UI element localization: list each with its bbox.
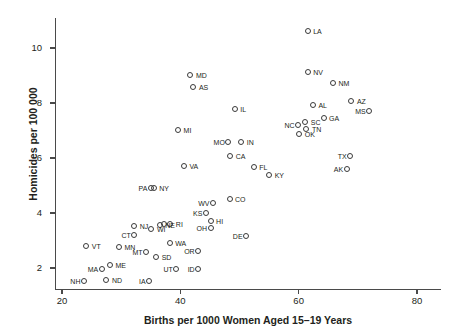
data-point-ok[interactable] bbox=[296, 131, 302, 137]
x-axis-tick bbox=[416, 289, 417, 294]
data-point-label-mo: MO bbox=[209, 139, 225, 146]
data-point-fl[interactable] bbox=[251, 164, 257, 170]
data-point-label-tx: TX bbox=[331, 153, 347, 160]
data-point-sc[interactable] bbox=[302, 119, 308, 125]
data-point-label-oh: OH bbox=[191, 225, 207, 232]
data-point-label-ak: AK bbox=[327, 166, 343, 173]
data-point-ma[interactable] bbox=[99, 266, 105, 272]
data-point-label-as: AS bbox=[199, 84, 208, 91]
data-point-label-ky: KY bbox=[275, 172, 284, 179]
y-axis-tick-label: 6 bbox=[20, 153, 42, 163]
data-point-ms[interactable] bbox=[366, 108, 372, 114]
x-axis-tick-label: 60 bbox=[284, 296, 314, 306]
data-point-label-ri: RI bbox=[176, 221, 183, 228]
data-point-la[interactable] bbox=[305, 28, 311, 34]
data-point-nc[interactable] bbox=[295, 122, 301, 128]
y-axis-tick-label: 2 bbox=[20, 263, 42, 273]
data-point-mt[interactable] bbox=[143, 249, 149, 255]
data-point-ny[interactable] bbox=[151, 185, 157, 191]
data-point-label-nm: NM bbox=[339, 80, 350, 87]
data-point-al[interactable] bbox=[310, 102, 316, 108]
data-point-label-fl: FL bbox=[259, 164, 267, 171]
data-point-az[interactable] bbox=[348, 98, 354, 104]
x-axis-tick bbox=[61, 289, 62, 294]
data-point-ks[interactable] bbox=[203, 210, 209, 216]
y-axis-tick bbox=[50, 212, 55, 213]
data-point-co[interactable] bbox=[227, 196, 233, 202]
data-point-label-ms: MS bbox=[350, 108, 366, 115]
data-point-label-la: LA bbox=[313, 28, 322, 35]
y-axis-tick bbox=[50, 267, 55, 268]
data-point-as[interactable] bbox=[190, 84, 196, 90]
data-point-label-ct: CT bbox=[115, 232, 131, 239]
data-point-label-il: IL bbox=[240, 106, 246, 113]
data-point-id[interactable] bbox=[195, 266, 201, 272]
data-point-or[interactable] bbox=[195, 248, 201, 254]
data-point-label-nc: NC bbox=[279, 122, 295, 129]
y-axis-tick bbox=[50, 157, 55, 158]
data-point-label-id: ID bbox=[179, 266, 195, 273]
data-point-wi[interactable] bbox=[148, 226, 154, 232]
data-point-label-md: MD bbox=[196, 72, 207, 79]
x-axis-tick bbox=[298, 289, 299, 294]
data-point-label-me: ME bbox=[116, 262, 127, 269]
data-point-hi[interactable] bbox=[208, 218, 214, 224]
data-point-tx[interactable] bbox=[347, 153, 353, 159]
y-axis-tick bbox=[50, 47, 55, 48]
data-point-label-ca: CA bbox=[236, 153, 246, 160]
data-point-label-ks: KS bbox=[186, 210, 202, 217]
data-point-label-ok: OK bbox=[305, 131, 315, 138]
data-point-ia[interactable] bbox=[146, 278, 152, 284]
data-point-mo[interactable] bbox=[225, 139, 231, 145]
data-point-ak[interactable] bbox=[344, 166, 350, 172]
data-point-label-in: IN bbox=[247, 139, 254, 146]
data-point-ky[interactable] bbox=[266, 172, 272, 178]
data-point-label-de: DE bbox=[227, 233, 243, 240]
data-point-label-or: OR bbox=[179, 248, 195, 255]
data-point-ct[interactable] bbox=[131, 232, 137, 238]
data-point-label-sd: SD bbox=[162, 254, 172, 261]
data-point-label-co: CO bbox=[235, 196, 246, 203]
data-point-label-nh: NH bbox=[64, 278, 80, 285]
data-point-de[interactable] bbox=[243, 233, 249, 239]
data-point-il[interactable] bbox=[232, 106, 238, 112]
y-axis-line bbox=[55, 18, 56, 290]
data-point-nd[interactable] bbox=[103, 277, 109, 283]
x-axis-line bbox=[55, 289, 441, 290]
data-point-nv[interactable] bbox=[305, 69, 311, 75]
scatter-plot-figure: Homicides per 100 000 Births per 1000 Wo… bbox=[0, 0, 452, 336]
data-point-ca[interactable] bbox=[227, 153, 233, 159]
data-point-mn[interactable] bbox=[116, 244, 122, 250]
data-point-va[interactable] bbox=[181, 163, 187, 169]
data-point-label-hi: HI bbox=[216, 218, 223, 225]
data-point-label-nv: NV bbox=[313, 69, 323, 76]
data-point-sd[interactable] bbox=[153, 254, 159, 260]
data-point-wa[interactable] bbox=[167, 240, 173, 246]
data-point-nj[interactable] bbox=[131, 223, 137, 229]
data-point-label-mt: MT bbox=[127, 249, 143, 256]
data-point-label-az: AZ bbox=[357, 98, 366, 105]
data-point-mi[interactable] bbox=[175, 127, 181, 133]
y-axis-tick-label: 4 bbox=[20, 208, 42, 218]
data-point-label-pa: PA bbox=[131, 185, 147, 192]
data-point-label-al: AL bbox=[318, 102, 327, 109]
data-point-md[interactable] bbox=[187, 72, 193, 78]
data-point-label-nj: NJ bbox=[140, 223, 149, 230]
data-point-label-mi: MI bbox=[184, 127, 192, 134]
x-axis-tick-label: 80 bbox=[402, 296, 432, 306]
data-point-ga[interactable] bbox=[321, 115, 327, 121]
data-point-nh[interactable] bbox=[81, 278, 87, 284]
data-point-wv[interactable] bbox=[210, 200, 216, 206]
data-point-label-wi: WI bbox=[157, 226, 166, 233]
data-point-in[interactable] bbox=[238, 139, 244, 145]
x-axis-tick bbox=[180, 289, 181, 294]
data-point-vt[interactable] bbox=[83, 243, 89, 249]
data-point-me[interactable] bbox=[107, 262, 113, 268]
data-point-label-wa: WA bbox=[175, 240, 186, 247]
data-point-nm[interactable] bbox=[330, 80, 336, 86]
data-point-label-ny: NY bbox=[159, 185, 169, 192]
data-point-ri2[interactable] bbox=[161, 221, 167, 227]
data-point-oh[interactable] bbox=[208, 225, 214, 231]
x-axis-tick-label: 20 bbox=[47, 296, 77, 306]
data-point-label-vt: VT bbox=[92, 243, 101, 250]
